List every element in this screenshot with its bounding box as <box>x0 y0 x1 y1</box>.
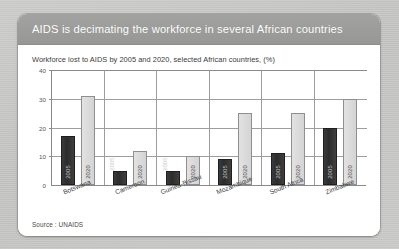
bar-2020[interactable]: 2020 <box>291 113 305 185</box>
x-axis-category: Cameroon <box>104 187 157 217</box>
x-axis-category: South Africa <box>261 187 314 217</box>
bar-value-label: 2005 <box>65 165 71 179</box>
y-axis-tick-label: 30 <box>39 95 46 102</box>
bar-2005[interactable]: 2005 <box>271 153 285 185</box>
y-axis-tick-label: 10 <box>39 153 46 160</box>
x-axis: BotswanaCameroonGuinea-BissauMozambiqueS… <box>51 187 366 217</box>
bar-value-label: 2005 <box>162 157 184 171</box>
plot-area: 2005202020052020200520202005202020052020… <box>51 70 366 186</box>
bar-group: 20052020 <box>52 70 105 185</box>
x-axis-category: Mozambique <box>209 187 262 217</box>
chart-plot: 010203040 200520202005202020052020200520… <box>32 70 366 195</box>
bar-value-label: 2005 <box>222 165 228 179</box>
bar-group: 20052020 <box>210 70 263 185</box>
y-axis: 010203040 <box>32 70 48 185</box>
y-axis-tick-label: 40 <box>39 67 46 74</box>
bar-group: 20052020 <box>315 70 367 185</box>
bar-value-label: 2020 <box>85 165 91 179</box>
x-axis-category: Guinea-Bissau <box>156 187 209 217</box>
bar-2005[interactable]: 2005 <box>113 171 127 185</box>
bar-2020[interactable]: 2020 <box>81 96 95 185</box>
bar-2005[interactable]: 2005 <box>323 128 337 185</box>
chart-card: AIDS is decimating the workforce in seve… <box>18 14 380 236</box>
bar-value-label: 2005 <box>109 157 131 171</box>
source-note: Source : UNAIDS <box>32 221 83 228</box>
x-axis-category: Botswana <box>51 187 104 217</box>
bar-group: 20052020 <box>105 70 158 185</box>
chart-subtitle: Workforce lost to AIDS by 2005 and 2020,… <box>32 55 275 64</box>
y-axis-tick-label: 0 <box>43 182 46 189</box>
bar-group: 20052020 <box>262 70 315 185</box>
y-axis-tick-label: 20 <box>39 124 46 131</box>
card-body: Workforce lost to AIDS by 2005 and 2020,… <box>18 45 380 236</box>
x-axis-category: Zimbabwe <box>314 187 367 217</box>
page-title: AIDS is decimating the workforce in seve… <box>32 23 343 35</box>
bar-group: 20052020 <box>157 70 210 185</box>
bar-2005[interactable]: 2005 <box>218 159 232 185</box>
bar-value-label: 2005 <box>327 165 333 179</box>
bar-groups: 2005202020052020200520202005202020052020… <box>52 70 366 185</box>
bar-2020[interactable]: 2020 <box>343 99 357 185</box>
bar-value-label: 2005 <box>275 165 281 179</box>
card-header: AIDS is decimating the workforce in seve… <box>18 14 380 45</box>
bar-2005[interactable]: 2005 <box>61 136 75 185</box>
